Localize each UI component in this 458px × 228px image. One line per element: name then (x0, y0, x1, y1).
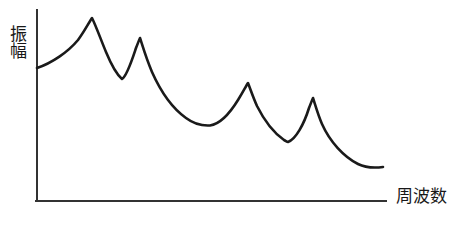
amplitude-response-curve (37, 18, 383, 168)
x-axis-label: 周波数 (396, 186, 447, 206)
plot-canvas (0, 0, 458, 228)
y-axis-label: 振幅 (3, 11, 31, 73)
resonance-chart-figure: 振幅 周波数 (0, 0, 458, 228)
